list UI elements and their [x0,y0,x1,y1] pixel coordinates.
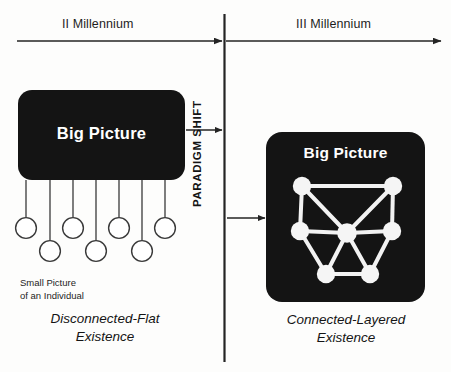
paradigm-shift-label: PARADIGM SHIFT [191,77,205,207]
left-existence-caption: Disconnected-Flat Existence [22,310,188,345]
network-node [317,265,335,283]
right-existence-caption-line1: Connected-Layered [262,311,430,329]
network-node [291,222,309,240]
network-node [384,177,402,195]
network-node [337,223,357,243]
right-existence-caption-line2: Existence [262,329,430,347]
era-label-third-millennium: III Millennium [296,17,371,31]
era-label-second-millennium: II Millennium [62,17,133,31]
small-picture-caption: Small Picture of an Individual [20,277,84,302]
diagram-canvas: Big Picture Big Picture [0,0,451,372]
network-node [293,177,311,195]
small-picture-caption-line1: Small Picture [20,277,84,290]
network-node [383,222,401,240]
left-existence-caption-line1: Disconnected-Flat [22,310,188,328]
network-node [361,265,379,283]
small-picture-caption-line2: of an Individual [20,290,84,303]
left-existence-caption-line2: Existence [22,328,188,346]
right-existence-caption: Connected-Layered Existence [262,311,430,346]
